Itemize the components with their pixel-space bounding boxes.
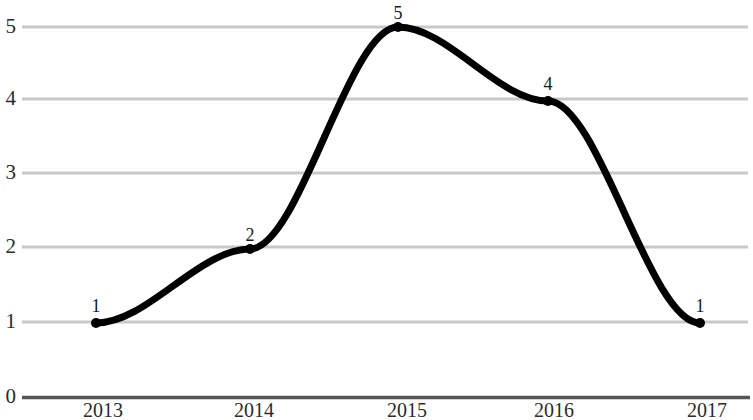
x-tick-label-2017: 2017 [662,400,752,420]
x-tick-label-2013: 2013 [58,400,148,420]
data-point-label-2015: 5 [383,4,413,22]
data-point-label-2016: 4 [533,75,563,93]
data-point-label-2014: 2 [235,226,265,244]
y-tick-label-4: 4 [0,88,16,109]
y-tick-label-3: 3 [0,162,16,183]
data-point-marker [543,96,553,106]
gridlines [22,27,748,322]
y-tick-label-2: 2 [0,236,16,257]
data-point-marker [393,22,403,32]
x-tick-label-2014: 2014 [209,400,299,420]
chart-plot-area [0,0,753,420]
line-chart: 5 4 3 2 1 0 2013 2014 2015 2016 2017 1 2… [0,0,753,420]
x-tick-label-2015: 2015 [362,400,452,420]
data-point-marker [695,318,705,328]
data-point-label-2013: 1 [81,297,111,315]
y-tick-label-5: 5 [0,16,16,37]
y-tick-label-1: 1 [0,311,16,332]
data-point-marker [91,318,101,328]
x-tick-label-2016: 2016 [509,400,599,420]
data-point-label-2017: 1 [685,297,715,315]
y-tick-label-0: 0 [0,386,16,407]
data-point-marker [245,244,255,254]
data-series-line [96,27,700,323]
